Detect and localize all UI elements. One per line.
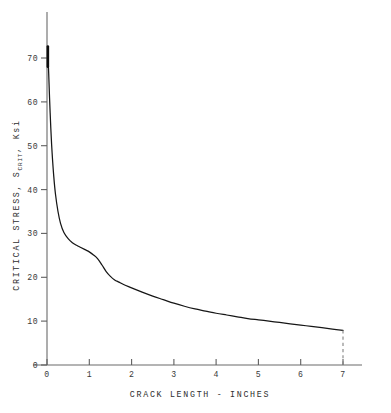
x-ticklabel-4: 4: [213, 370, 218, 379]
chart-canvas: 0 10 20 30 40 50 60 70 0 1 2 3 4 5 6: [0, 0, 391, 413]
x-ticklabel-1: 1: [87, 370, 92, 379]
y-axis-title-subscript: CRIT: [17, 153, 24, 171]
y-axis-title-part1: CRITICAL STRESS, S: [12, 170, 21, 290]
y-ticklabel-20: 20: [27, 273, 38, 282]
x-axis-title: CRACK LENGTH - INCHES: [130, 390, 270, 399]
x-ticklabel-5: 5: [256, 370, 261, 379]
chart-background: [0, 0, 391, 413]
x-ticklabel-2: 2: [129, 370, 134, 379]
y-ticklabel-50: 50: [27, 142, 38, 151]
x-ticklabel-0: 0: [44, 370, 49, 379]
y-ticklabel-70: 70: [27, 54, 38, 63]
y-ticklabel-60: 60: [27, 98, 38, 107]
y-axis-title-part2: , Ksi: [12, 119, 21, 152]
y-ticklabel-0: 0: [33, 361, 38, 370]
y-ticklabel-30: 30: [27, 229, 38, 238]
y-ticklabel-40: 40: [27, 186, 38, 195]
x-ticklabel-3: 3: [171, 370, 176, 379]
x-ticklabel-6: 6: [298, 370, 303, 379]
chart-figure: 0 10 20 30 40 50 60 70 0 1 2 3 4 5 6: [0, 0, 391, 413]
y-ticklabel-10: 10: [27, 317, 38, 326]
x-ticklabel-7: 7: [340, 370, 345, 379]
